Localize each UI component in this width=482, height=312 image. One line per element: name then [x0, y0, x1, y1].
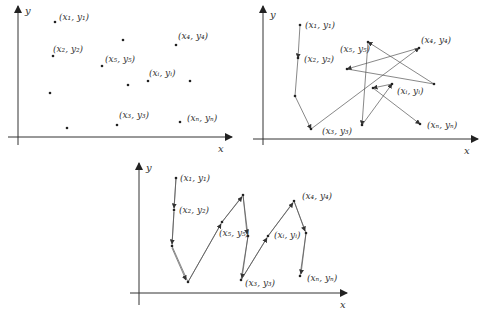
y-axis-label: y: [24, 5, 31, 16]
point-3: [310, 128, 313, 131]
label-p3: (x₃, y₃): [322, 126, 353, 136]
edge-arrow: [242, 236, 248, 278]
point: [171, 245, 174, 248]
edge-arrow: [188, 224, 221, 282]
point-1: [175, 177, 178, 180]
point: [361, 124, 364, 127]
point-5: [101, 65, 104, 68]
edge: [298, 25, 300, 58]
point-2: [52, 55, 55, 58]
point-N: [179, 121, 182, 124]
edge-arrow: [301, 233, 306, 274]
point-4: [293, 200, 296, 203]
point-3: [116, 124, 119, 127]
label-p5: (x₅, y₅): [105, 54, 136, 64]
label-pN: (xₙ, yₙ): [307, 273, 338, 283]
label-p2: (x₂, y₂): [304, 54, 335, 64]
edge: [295, 58, 298, 96]
label-p2: (x₂, y₂): [53, 44, 84, 54]
point-3: [240, 279, 243, 282]
edge-arrow: [174, 178, 176, 208]
point-N: [299, 275, 302, 278]
point-1: [299, 24, 302, 27]
panel-random-order-path: y x (x₁, y₁) (x₂, y₂) (x₃, y₃) (x₄, y₄) …: [253, 6, 478, 156]
edge: [362, 42, 368, 125]
panel-sorted-by-x-path: y x (x₁, y₁) (x₂, y₂) (x₅, y₅) (x₃, y₃) …: [130, 162, 347, 310]
label-p5: (x₅, y₅): [219, 228, 250, 238]
point-i: [267, 235, 270, 238]
point-i: [147, 80, 150, 83]
point-5: [221, 221, 224, 224]
point-2: [173, 209, 176, 212]
label-pi: (xᵢ, yᵢ): [397, 86, 424, 96]
label-p5: (x₅, y₅): [340, 44, 371, 54]
label-pN: (xₙ, yₙ): [187, 113, 218, 123]
edge-arrow: [294, 201, 305, 231]
diagram-canvas: y x (x₁, y₁) (x₂, y₂) (x₅, y₅) (x₄, y₄) …: [0, 0, 482, 312]
label-pi: (xᵢ, yᵢ): [149, 68, 176, 78]
label-pN: (xₙ, yₙ): [427, 120, 458, 130]
x-axis-label: x: [340, 299, 346, 310]
point: [242, 194, 245, 197]
point: [187, 281, 190, 284]
point: [189, 80, 192, 83]
edge: [295, 96, 311, 129]
point-1: [54, 21, 57, 24]
label-p4: (x₄, y₄): [421, 35, 452, 45]
point: [294, 95, 297, 98]
point-2: [297, 57, 300, 60]
point: [122, 39, 125, 42]
panel-scattered-points: y x (x₁, y₁) (x₂, y₂) (x₅, y₅) (x₄, y₄) …: [8, 5, 232, 154]
label-p1: (x₁, y₁): [305, 20, 336, 30]
edge-arrow: [172, 248, 186, 280]
point-N: [419, 123, 422, 126]
label-p4: (x₄, y₄): [178, 31, 209, 41]
point-4: [418, 47, 421, 50]
point: [367, 41, 370, 44]
label-p3: (x₃, y₃): [245, 278, 276, 288]
edge: [368, 42, 434, 84]
point: [127, 84, 130, 87]
edge-arrow: [172, 212, 174, 244]
label-p3: (x₃, y₃): [119, 110, 150, 120]
x-axis-label: x: [464, 145, 470, 156]
edge: [362, 84, 392, 125]
label-pi: (xᵢ, yᵢ): [274, 230, 301, 240]
label-p4: (x₄, y₄): [302, 191, 333, 201]
point: [372, 87, 375, 90]
edge: [347, 69, 434, 84]
point-4: [175, 44, 178, 47]
y-axis-label: y: [269, 9, 276, 20]
point-5: [346, 68, 349, 71]
y-axis-label: y: [145, 162, 152, 173]
point: [305, 232, 308, 235]
point: [247, 235, 250, 238]
x-axis-label: x: [218, 143, 224, 154]
point: [49, 92, 52, 95]
point-i: [391, 83, 394, 86]
point: [433, 83, 436, 86]
label-p1: (x₁, y₁): [180, 173, 211, 183]
label-p2: (x₂, y₂): [179, 205, 210, 215]
label-p1: (x₁, y₁): [59, 12, 90, 22]
point: [66, 127, 69, 130]
edge-arrow: [222, 197, 242, 222]
